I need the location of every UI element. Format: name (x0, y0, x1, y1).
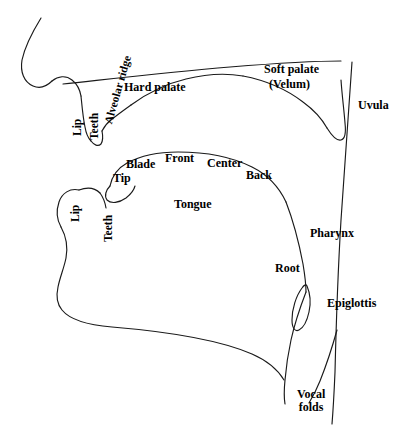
label-hard-palate: Hard palate (124, 81, 186, 93)
lower-lip-top-path (79, 188, 100, 193)
label-vocal-folds-line2: folds (297, 401, 325, 414)
label-pharynx: Pharynx (310, 227, 354, 239)
label-root: Root (275, 262, 300, 274)
label-upper-teeth: Teeth (89, 113, 101, 140)
label-vocal-folds: Vocal folds (297, 388, 325, 413)
label-tongue-tip: Tip (113, 172, 131, 184)
label-vocal-folds-line1: Vocal (297, 388, 325, 401)
label-velum: (Velum) (269, 78, 310, 90)
tongue-root-path (286, 202, 306, 292)
vocal-tract-outline-svg (0, 0, 407, 430)
label-tongue-front: Front (165, 152, 194, 164)
label-tongue: Tongue (174, 198, 212, 210)
jaw-floor-path (57, 227, 284, 380)
tongue-tip-path (106, 186, 135, 202)
label-uvula: Uvula (358, 99, 389, 111)
label-epiglottis: Epiglottis (327, 297, 376, 309)
upper-lip-path (52, 77, 81, 96)
upper-face-profile-path (21, 18, 52, 87)
label-tongue-blade: Blade (126, 158, 155, 170)
uvula-path (327, 80, 345, 140)
vocal-tract-diagram: Alveolar ridge Hard palate Soft palate (… (0, 0, 407, 430)
label-lower-teeth: Teeth (103, 215, 115, 242)
label-tongue-back: Back (246, 169, 272, 181)
label-upper-lip: Lip (72, 119, 84, 136)
pharyngeal-wall-path (332, 62, 352, 424)
label-soft-palate: Soft palate (264, 63, 319, 75)
label-tongue-center: Center (207, 157, 242, 169)
label-lower-lip: Lip (70, 205, 82, 222)
